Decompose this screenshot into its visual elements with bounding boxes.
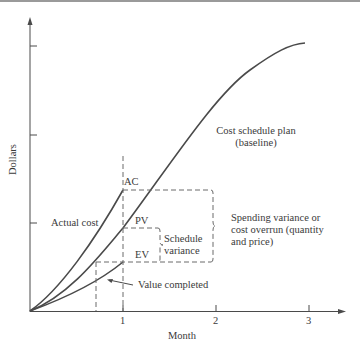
x-axis-arrow-icon bbox=[338, 309, 346, 314]
x-axis-label: Month bbox=[168, 330, 196, 342]
spending-variance-line1: Spending variance or bbox=[231, 212, 320, 224]
y-axis-arrow-icon bbox=[28, 17, 33, 25]
earned-value-chart bbox=[0, 0, 360, 354]
x-tick-label-2: 2 bbox=[213, 315, 218, 327]
value-completed-leader bbox=[109, 280, 133, 285]
actual-cost-label: Actual cost bbox=[51, 217, 99, 229]
schedule-variance-bracket bbox=[158, 228, 163, 262]
ac-label: AC bbox=[124, 176, 139, 188]
baseline-curve bbox=[30, 43, 305, 311]
spending-variance-line3: and price) bbox=[231, 236, 273, 248]
x-tick-label-3: 3 bbox=[306, 315, 311, 327]
y-axis-label: Dollars bbox=[7, 144, 18, 175]
spending-variance-bracket bbox=[211, 190, 216, 262]
value-completed-label: Value completed bbox=[138, 279, 208, 291]
actual-cost-curve bbox=[30, 190, 123, 311]
baseline-label-line2: (baseline) bbox=[196, 137, 316, 149]
spending-variance-line2: cost overrun (quantity bbox=[231, 224, 324, 236]
schedule-variance-line1: Schedule bbox=[164, 233, 203, 245]
schedule-variance-line2: variance bbox=[164, 245, 200, 257]
ev-label: EV bbox=[135, 249, 149, 261]
leader-arrow-icon bbox=[107, 279, 113, 283]
baseline-label-line1: Cost schedule plan bbox=[196, 125, 316, 137]
pv-label: PV bbox=[135, 215, 148, 227]
x-tick-label-1: 1 bbox=[120, 315, 125, 327]
